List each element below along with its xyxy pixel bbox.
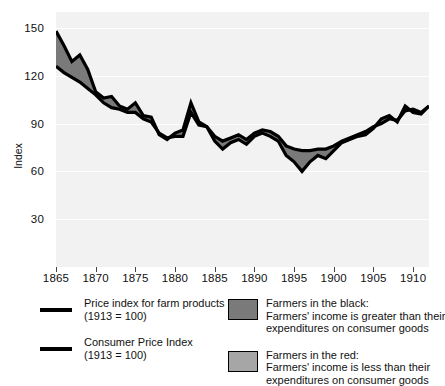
- legend-column-lines: Price index for farm products (1913 = 10…: [40, 297, 230, 361]
- x-tick-label: 1895: [281, 272, 307, 284]
- series-paths: [56, 12, 429, 267]
- line-swatch-icon: [40, 308, 72, 312]
- legend-item-farmers-in-the-black: Farmers in the black: Farmers' income is…: [228, 297, 439, 335]
- legend-label: Price index for farm products: [84, 297, 230, 310]
- y-axis-title: Index: [12, 126, 24, 186]
- x-tick-label: 1875: [122, 272, 148, 284]
- legend-sublabel: expenditures on consumer goods: [266, 374, 439, 386]
- x-axis-labels: 1865187018751880188518901895190019051910: [0, 272, 439, 290]
- band-swatch-icon: [228, 299, 258, 320]
- y-tick-label: 120: [24, 70, 44, 82]
- legend-sublabel: Farmers' income is greater than their: [266, 310, 439, 323]
- y-tick-label: 30: [31, 213, 44, 225]
- legend-sublabel: (1913 = 100): [84, 310, 230, 323]
- legend-column-bands: Farmers in the black: Farmers' income is…: [228, 297, 439, 386]
- x-tick-label: 1880: [162, 272, 188, 284]
- band-swatch-icon: [228, 351, 258, 372]
- band-fill: [56, 31, 429, 171]
- chart: Index 30 60 90 120 150 18651870187518801…: [0, 0, 439, 285]
- y-axis: Index 30 60 90 120 150: [0, 0, 52, 285]
- legend-item-farmers-in-the-red: Farmers in the red: Farmers' income is l…: [228, 349, 439, 386]
- legend-label: Farmers in the red:: [266, 349, 439, 362]
- series-line-cpi: [56, 66, 429, 150]
- x-tick-label: 1905: [360, 272, 386, 284]
- legend-label: Consumer Price Index: [84, 336, 230, 349]
- x-tick-label: 1885: [202, 272, 228, 284]
- legend: Price index for farm products (1913 = 10…: [0, 297, 439, 367]
- line-swatch-icon: [40, 347, 72, 351]
- x-tick-label: 1890: [241, 272, 267, 284]
- plot-area: [56, 12, 429, 267]
- legend-item-farm-price-index: Price index for farm products (1913 = 10…: [40, 297, 230, 322]
- y-tick-label: 90: [31, 118, 44, 130]
- x-tick-label: 1900: [321, 272, 347, 284]
- legend-sublabel: Farmers' income is less than their: [266, 361, 439, 374]
- legend-label: Farmers in the black:: [266, 297, 439, 310]
- x-tick-label: 1865: [43, 272, 69, 284]
- y-tick-label: 150: [24, 22, 44, 34]
- y-tick-label: 60: [31, 165, 44, 177]
- x-tick-label: 1910: [400, 272, 426, 284]
- legend-sublabel: expenditures on consumer goods: [266, 322, 439, 335]
- legend-item-consumer-price-index: Consumer Price Index (1913 = 100): [40, 336, 230, 361]
- legend-sublabel: (1913 = 100): [84, 349, 230, 362]
- x-tick-label: 1870: [82, 272, 108, 284]
